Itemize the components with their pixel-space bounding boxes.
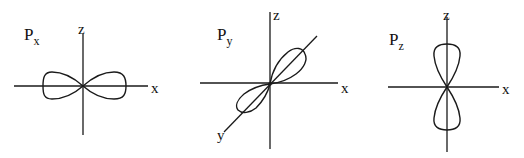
py-orbital-panel: Py z x y: [200, 7, 349, 149]
z-axis-label: z: [443, 7, 450, 23]
pz-orbital-panel: Pz z x: [388, 7, 510, 152]
py-label: Py: [217, 25, 232, 48]
y-axis-label: y: [217, 127, 225, 143]
x-axis-label: x: [341, 80, 349, 96]
px-label: Px: [24, 25, 39, 48]
x-axis-label: x: [502, 81, 510, 97]
z-axis-label: z: [273, 7, 280, 23]
pz-label: Pz: [389, 30, 404, 53]
px-orbital-panel: Px z x: [14, 21, 159, 135]
x-axis-label: x: [151, 80, 159, 96]
z-axis-label: z: [78, 21, 85, 37]
py-lobe-lower: [237, 84, 270, 112]
origin-dot: [268, 82, 272, 86]
p-orbitals-diagram: Px z x Py z x y Pz z x: [0, 0, 524, 158]
